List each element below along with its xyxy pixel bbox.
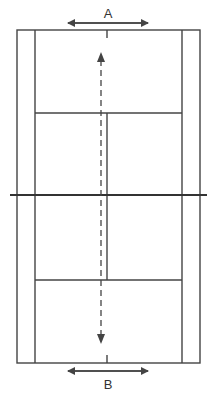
dashed-length-arrow — [97, 52, 105, 344]
label-b: B — [104, 377, 113, 392]
arrowhead-up-icon — [97, 52, 105, 62]
label-a: A — [104, 6, 113, 21]
arrowhead-down-icon — [97, 334, 105, 344]
court-outer-boundary — [17, 30, 200, 363]
court-diagram: A B — [0, 0, 217, 394]
